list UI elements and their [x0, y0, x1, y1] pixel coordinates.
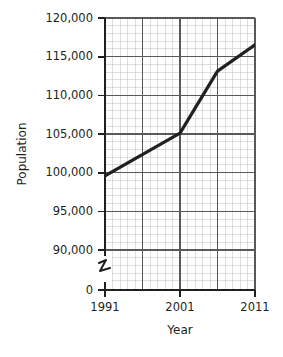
ytick-label-90000: 90,000 [53, 243, 93, 257]
ytick-label-110000: 110,000 [45, 88, 93, 102]
population-line-chart-figure: 120,000 115,000 110,000 105,000 100,000 … [0, 0, 283, 357]
chart-svg: 120,000 115,000 110,000 105,000 100,000 … [0, 0, 283, 357]
ytick-label-zero: 0 [86, 283, 93, 297]
y-axis-title: Population [15, 122, 29, 185]
xtick-label-1991: 1991 [90, 300, 119, 314]
xtick-label-2001: 2001 [165, 300, 194, 314]
ytick-label-105000: 105,000 [45, 127, 93, 141]
ytick-label-100000: 100,000 [45, 165, 93, 179]
x-axis-title: Year [166, 323, 192, 337]
ytick-label-120000: 120,000 [45, 11, 93, 25]
xtick-label-2011: 2011 [240, 300, 269, 314]
y-axis-break-symbol [99, 256, 112, 282]
ytick-label-115000: 115,000 [45, 49, 93, 63]
ytick-label-95000: 95,000 [53, 204, 93, 218]
